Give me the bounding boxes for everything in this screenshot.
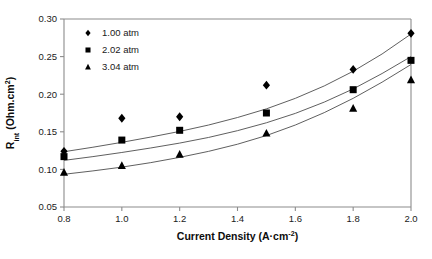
data-point-s1-p0 [61, 153, 68, 160]
data-point-s1-p1 [118, 137, 125, 144]
y-tick-label: 0.05 [39, 201, 58, 212]
legend-label-2: 3.04 atm [102, 61, 139, 72]
data-point-s1-p5 [408, 57, 415, 64]
legend-marker-square [85, 47, 90, 52]
data-point-s1-p3 [263, 110, 270, 117]
x-tick-label: 1.2 [173, 213, 186, 224]
x-axis-title: Current Density (A·cm-2) [177, 229, 298, 243]
data-point-s1-p2 [176, 127, 183, 134]
legend-label-1: 2.02 atm [102, 44, 139, 55]
x-tick-label: 2.0 [404, 213, 417, 224]
y-tick-label: 0.20 [39, 89, 58, 100]
x-tick-label: 1.6 [289, 213, 302, 224]
x-tick-label: 1.0 [115, 213, 128, 224]
chart-figure: 0.050.100.150.200.250.300.81.01.21.41.61… [0, 0, 432, 259]
y-tick-label: 0.30 [39, 13, 58, 24]
y-tick-label: 0.10 [39, 164, 58, 175]
y-tick-label: 0.25 [39, 51, 58, 62]
legend-label-0: 1.00 atm [102, 27, 139, 38]
y-tick-label: 0.15 [39, 126, 58, 137]
x-tick-label: 1.4 [231, 213, 244, 224]
x-tick-label: 1.8 [347, 213, 360, 224]
x-tick-label: 0.8 [57, 213, 70, 224]
data-point-s1-p4 [350, 86, 357, 93]
